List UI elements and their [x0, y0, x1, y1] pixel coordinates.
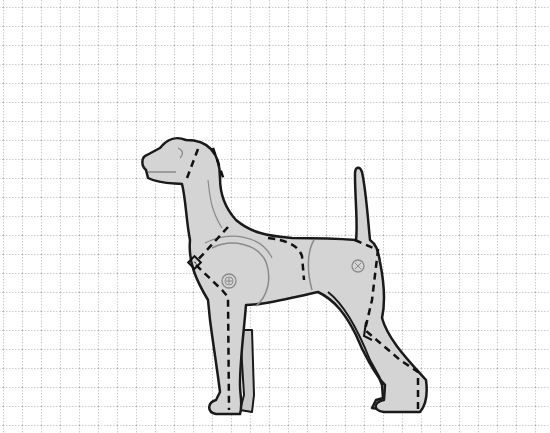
dog-diagram	[0, 0, 550, 433]
grid-background	[0, 0, 550, 433]
diagram-canvas: Dog body diagram on grid	[0, 0, 550, 433]
